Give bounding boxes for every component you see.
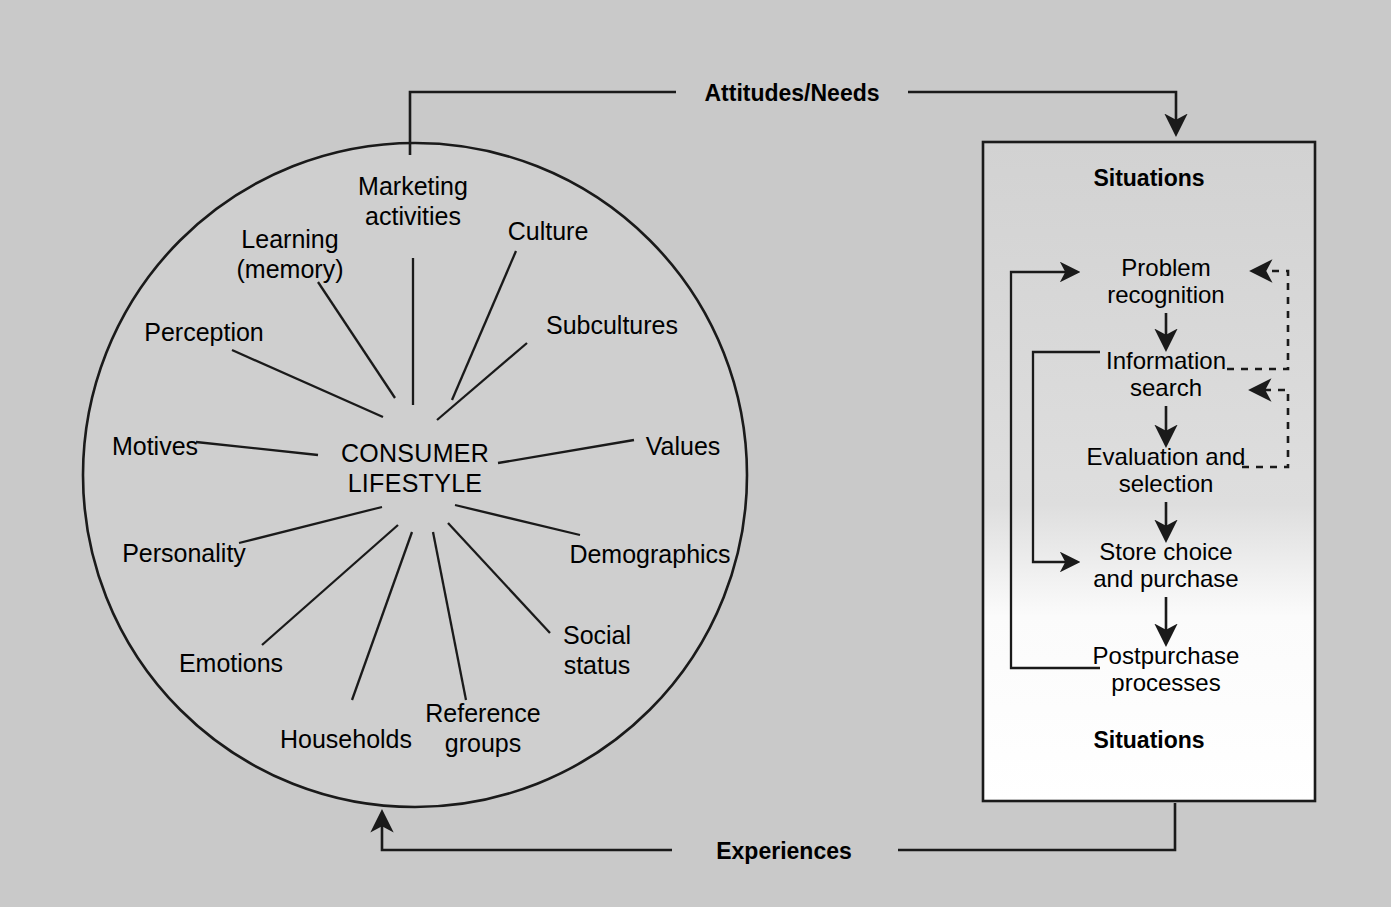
spoke-label-households: Households [280, 725, 412, 753]
center-label-line2: LIFESTYLE [348, 469, 483, 497]
attitudes-needs-label: Attitudes/Needs [704, 80, 879, 106]
step-label-evaluation-and-selection-1: Evaluation and [1087, 443, 1246, 470]
panel-footer-label: Situations [1093, 727, 1204, 753]
step-label-store-choice-and-purchase-1: Store choice [1099, 538, 1232, 565]
step-label-information-search-2: search [1130, 374, 1202, 401]
spoke-label-perception: Perception [144, 318, 264, 346]
spoke-label-learning-memory-2: (memory) [237, 255, 344, 283]
spoke-label-values: Values [646, 432, 721, 460]
spoke-label-emotions: Emotions [179, 649, 283, 677]
consumer-lifestyle-circle-group: CONSUMER LIFESTYLE Marketing activities … [83, 143, 747, 807]
spoke-label-demographics: Demographics [569, 540, 730, 568]
spoke-label-personality: Personality [122, 539, 246, 567]
situations-panel-group: Situations Situations Problem recognitio… [983, 142, 1315, 801]
spoke-label-reference-groups-2: groups [445, 729, 521, 757]
spoke-label-social-status-2: status [564, 651, 631, 679]
step-label-information-search-1: Information [1106, 347, 1226, 374]
step-label-problem-recognition-2: recognition [1107, 281, 1224, 308]
diagram-svg: CONSUMER LIFESTYLE Marketing activities … [0, 0, 1391, 907]
step-label-postpurchase-processes-2: processes [1111, 669, 1220, 696]
spoke-label-motives: Motives [112, 432, 198, 460]
panel-header-label: Situations [1093, 165, 1204, 191]
spoke-label-reference-groups-1: Reference [425, 699, 540, 727]
spoke-label-marketing-activities-2: activities [365, 202, 461, 230]
spoke-label-marketing-activities-1: Marketing [358, 172, 468, 200]
step-label-evaluation-and-selection-2: selection [1119, 470, 1214, 497]
step-label-problem-recognition-1: Problem [1121, 254, 1210, 281]
step-label-postpurchase-processes-1: Postpurchase [1093, 642, 1240, 669]
spoke-label-social-status-1: Social [563, 621, 631, 649]
experiences-label: Experiences [716, 838, 852, 864]
step-label-store-choice-and-purchase-2: and purchase [1093, 565, 1238, 592]
spoke-label-subcultures: Subcultures [546, 311, 678, 339]
center-label-line1: CONSUMER [341, 439, 489, 467]
spoke-label-culture: Culture [508, 217, 589, 245]
spoke-label-learning-memory-1: Learning [241, 225, 338, 253]
diagram-canvas: CONSUMER LIFESTYLE Marketing activities … [0, 0, 1391, 907]
